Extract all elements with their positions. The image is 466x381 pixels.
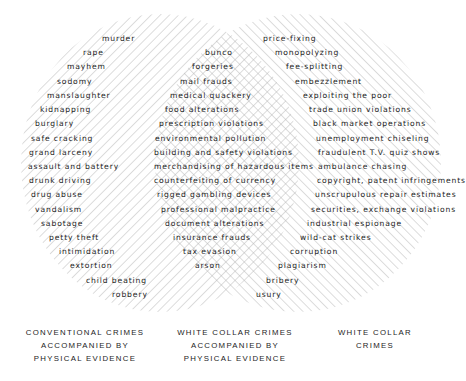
left-only-crime-label: child beating xyxy=(86,276,147,285)
left-only-crime-label: grand larceny xyxy=(29,148,93,157)
caption-0: CONVENTIONAL CRIMESACCOMPANIED BYPHYSICA… xyxy=(20,326,150,365)
caption-line: CONVENTIONAL CRIMES xyxy=(20,326,150,339)
right-only-crime-label: industrial espionage xyxy=(307,219,402,228)
left-only-crime-label: sabotage xyxy=(41,219,83,228)
right-only-crime-label: fraudulent T.V. quiz shows xyxy=(318,148,440,157)
right-only-crime-label: price-fixing xyxy=(263,34,316,43)
left-only-crime-label: kidnapping xyxy=(40,105,91,114)
overlap-crime-label: counterfeiting of currency xyxy=(154,176,276,185)
right-only-crime-label: wild-cat strikes xyxy=(300,233,372,242)
left-only-crime-label: robbery xyxy=(112,290,148,299)
right-only-crime-label: black market operations xyxy=(313,119,426,128)
right-only-crime-label: exploiting the poor xyxy=(303,91,392,100)
left-only-crime-label: drug abuse xyxy=(31,190,83,199)
caption-line: ACCOMPANIED BY xyxy=(20,339,150,352)
caption-1: WHITE COLLAR CRIMESACCOMPANIED BYPHYSICA… xyxy=(170,326,300,365)
caption-line: WHITE COLLAR xyxy=(320,326,430,339)
overlap-crime-label: prescription violations xyxy=(159,119,264,128)
right-only-crime-label: fee-splitting xyxy=(286,62,343,71)
overlap-crime-label: professional malpractice xyxy=(161,205,276,214)
overlap-crime-label: medical quackery xyxy=(170,91,252,100)
overlap-crime-label: building and safety violations xyxy=(154,148,293,157)
right-only-crime-label: corruption xyxy=(290,247,338,256)
right-only-crime-label: unemployment chiseling xyxy=(316,134,429,143)
right-only-crime-label: embezzlement xyxy=(295,77,362,86)
overlap-crime-label: bunco xyxy=(205,48,233,57)
left-only-crime-label: assault and battery xyxy=(28,162,119,171)
left-only-crime-label: sodomy xyxy=(57,77,92,86)
overlap-crime-label: rigged gambling devices xyxy=(157,190,271,199)
left-only-crime-label: extortion xyxy=(70,261,112,270)
right-only-crime-label: plagiarism xyxy=(278,261,327,270)
right-only-crime-label: securities, exchange violations xyxy=(311,205,456,214)
left-only-crime-label: mayhem xyxy=(67,62,106,71)
overlap-crime-label: food alterations xyxy=(165,105,239,114)
overlap-crime-label: arson xyxy=(195,261,221,270)
left-only-crime-label: rape xyxy=(83,48,104,57)
left-only-crime-label: vandalism xyxy=(35,205,82,214)
right-only-crime-label: bribery xyxy=(266,276,299,285)
right-only-crime-label: monopolyzing xyxy=(275,48,339,57)
left-only-crime-label: drunk driving xyxy=(29,176,91,185)
left-only-crime-label: petty theft xyxy=(49,233,99,242)
right-only-crime-label: copyright, patent infringements xyxy=(317,176,466,185)
caption-line: CRIMES xyxy=(320,339,430,352)
caption-line: PHYSICAL EVIDENCE xyxy=(170,352,300,365)
left-only-crime-label: safe cracking xyxy=(31,134,93,143)
left-only-crime-label: murder xyxy=(102,34,135,43)
overlap-crime-label: mail frauds xyxy=(180,77,233,86)
overlap-crime-label: forgeries xyxy=(192,62,234,71)
right-only-crime-label: ambulance chasing xyxy=(318,162,407,171)
right-only-crime-label: unscrupulous repair estimates xyxy=(315,190,456,199)
left-only-crime-label: intimidation xyxy=(59,247,115,256)
caption-line: WHITE COLLAR CRIMES xyxy=(170,326,300,339)
caption-2: WHITE COLLARCRIMES xyxy=(320,326,430,352)
overlap-crime-label: tax evasion xyxy=(183,247,237,256)
overlap-crime-label: document alterations xyxy=(165,219,264,228)
caption-line: PHYSICAL EVIDENCE xyxy=(20,352,150,365)
right-only-crime-label: trade union violations xyxy=(309,105,412,114)
right-only-crime-label: usury xyxy=(256,290,282,299)
overlap-crime-label: environmental pollution xyxy=(155,134,266,143)
left-only-crime-label: manslaughter xyxy=(47,91,111,100)
overlap-crime-label: insurance frauds xyxy=(173,233,251,242)
left-only-crime-label: burglary xyxy=(35,119,74,128)
overlap-crime-label: merchandising of hazardous items xyxy=(154,162,314,171)
caption-line: ACCOMPANIED BY xyxy=(170,339,300,352)
